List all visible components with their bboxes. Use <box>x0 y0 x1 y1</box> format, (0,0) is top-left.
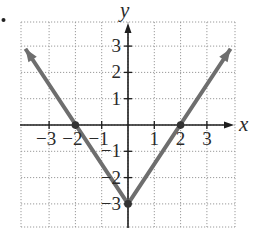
y-axis-arrow-icon <box>125 23 132 33</box>
y-tick-label: −1 <box>101 140 121 161</box>
y-tick-label: 1 <box>112 88 122 109</box>
y-tick-label: −2 <box>101 167 121 188</box>
graph: −3−2−1123321−1−2−3 x y <box>0 0 253 241</box>
marked-point <box>124 200 132 208</box>
x-tick-label: −3 <box>36 128 56 149</box>
problem-bullet <box>2 18 6 22</box>
x-tick-label: 3 <box>202 128 212 149</box>
y-axis-label: y <box>118 0 130 22</box>
x-tick-label: 2 <box>176 128 186 149</box>
x-tick-label: −2 <box>62 128 82 149</box>
x-axis-arrow-icon <box>224 122 234 129</box>
y-tick-label: 2 <box>112 61 122 82</box>
x-axis-label: x <box>238 112 249 136</box>
axes <box>20 23 234 228</box>
y-tick-label: 3 <box>112 35 122 56</box>
x-tick-label: 1 <box>150 128 160 149</box>
y-tick-label: −3 <box>101 193 121 214</box>
